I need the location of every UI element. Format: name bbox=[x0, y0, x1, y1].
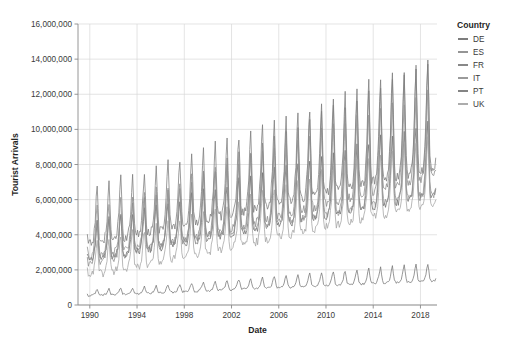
y-tick-label: 2,000,000 bbox=[36, 266, 73, 275]
y-tick-label: 8,000,000 bbox=[36, 161, 73, 170]
y-tick-label: 6,000,000 bbox=[36, 196, 73, 205]
legend-label-de: DE bbox=[473, 35, 485, 44]
x-axis-title: Date bbox=[248, 325, 267, 335]
x-tick-label: 2014 bbox=[364, 311, 383, 320]
y-tick-label: 14,000,000 bbox=[31, 55, 72, 64]
x-tick-label: 1998 bbox=[175, 311, 194, 320]
y-axis-title: Tourist Arrivals bbox=[10, 133, 20, 196]
y-tick-label: 12,000,000 bbox=[31, 90, 72, 99]
y-tick-label: 10,000,000 bbox=[31, 125, 72, 134]
tourist-arrivals-line-chart: 02,000,0004,000,0006,000,0008,000,00010,… bbox=[0, 0, 506, 350]
x-tick-label: 1990 bbox=[81, 311, 100, 320]
y-tick-label: 4,000,000 bbox=[36, 231, 73, 240]
legend-label-fr: FR bbox=[473, 61, 484, 70]
x-tick-label: 2002 bbox=[222, 311, 241, 320]
y-tick-label: 0 bbox=[67, 301, 72, 310]
x-tick-label: 2010 bbox=[317, 311, 336, 320]
legend-label-pt: PT bbox=[473, 87, 483, 96]
legend-label-it: IT bbox=[473, 74, 480, 83]
y-tick-label: 16,000,000 bbox=[31, 20, 72, 29]
legend-label-es: ES bbox=[473, 48, 484, 57]
legend-title: Country bbox=[457, 20, 490, 30]
legend-layer: CountryDEESFRITPTUK bbox=[457, 20, 490, 109]
series-layer bbox=[87, 60, 435, 296]
x-tick-label: 2018 bbox=[411, 311, 430, 320]
series-line-fr bbox=[87, 60, 435, 245]
legend-label-uk: UK bbox=[473, 100, 485, 109]
x-tick-label: 1994 bbox=[128, 311, 147, 320]
x-tick-label: 2006 bbox=[270, 311, 289, 320]
grid-layer bbox=[78, 24, 437, 305]
chart-root: 02,000,0004,000,0006,000,0008,000,00010,… bbox=[0, 0, 506, 350]
